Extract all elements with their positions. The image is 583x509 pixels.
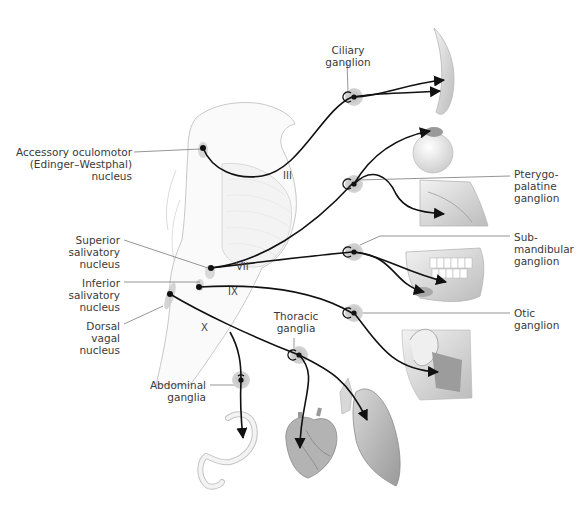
label-thoracic-ganglia: Thoracic ganglia (266, 310, 326, 334)
label-line: Accessory oculomotor (10, 146, 132, 158)
label-line: vagal (50, 332, 120, 344)
label-dorsal-vagal-nucleus: Dorsal vagal nucleus (50, 320, 120, 356)
label-line: palatine (514, 180, 582, 192)
label-ciliary-ganglion: Ciliary ganglion (318, 44, 378, 68)
label-line: Ciliary (318, 44, 378, 56)
label-line: nucleus (50, 258, 120, 270)
lens-organ (434, 28, 454, 114)
label-abdominal-ganglia: Abdominal ganglia (140, 379, 206, 403)
ear-parotid-organ (402, 329, 472, 400)
nerve-label-ix: IX (228, 286, 238, 297)
label-line: Otic (514, 307, 582, 319)
stomach-organ (200, 414, 254, 486)
lung-organ (340, 378, 400, 486)
label-line: ganglia (140, 391, 206, 403)
label-edinger-westphal-nucleus: Accessory oculomotor (Edinger–Westphal) … (10, 146, 132, 182)
nerve-label-iii: III (283, 170, 292, 181)
label-line: salivatory (50, 246, 120, 258)
label-submandibular-ganglion: Sub- mandibular ganglion (514, 231, 582, 267)
brainstem (156, 103, 296, 385)
nerve-label-vii: VII (236, 261, 249, 272)
label-line: ganglia (266, 322, 326, 334)
nasal-cavity-organ (420, 180, 488, 226)
label-line: Thoracic (266, 310, 326, 322)
label-line: Superior (50, 234, 120, 246)
label-line: nucleus (10, 170, 132, 182)
nerve-label-x: X (201, 322, 208, 333)
label-line: salivatory (50, 289, 120, 301)
label-otic-ganglion: Otic ganglion (514, 307, 582, 331)
label-line: (Edinger–Westphal) (10, 158, 132, 170)
label-line: Dorsal (50, 320, 120, 332)
label-inferior-salivatory-nucleus: Inferior salivatory nucleus (50, 277, 120, 313)
label-line: nucleus (50, 344, 120, 356)
label-superior-salivatory-nucleus: Superior salivatory nucleus (50, 234, 120, 270)
label-line: Sub- (514, 231, 582, 243)
label-pterygopalatine-ganglion: Pterygo- palatine ganglion (514, 168, 582, 204)
label-line: nucleus (50, 301, 120, 313)
label-line: Abdominal (140, 379, 206, 391)
label-line: mandibular (514, 243, 582, 255)
label-line: ganglion (318, 56, 378, 68)
label-line: Pterygo- (514, 168, 582, 180)
label-line: ganglion (514, 255, 582, 267)
label-line: Inferior (50, 277, 120, 289)
heart-organ (286, 408, 337, 478)
jaw-teeth-organ (406, 248, 484, 302)
label-line: ganglion (514, 192, 582, 204)
label-line: ganglion (514, 319, 582, 331)
